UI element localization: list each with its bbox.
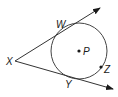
label-z: Z xyxy=(103,64,111,75)
ray-xy xyxy=(15,61,113,89)
label-y: Y xyxy=(65,79,73,90)
tangent-circle-diagram: W X P Z Y xyxy=(0,0,118,97)
point-z xyxy=(99,65,102,68)
label-w: W xyxy=(56,19,67,30)
center-point-p xyxy=(77,49,80,52)
label-x: X xyxy=(5,56,13,67)
label-p: P xyxy=(83,46,90,57)
